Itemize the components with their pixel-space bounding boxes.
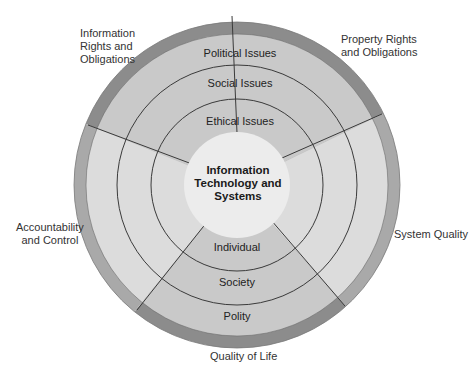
label-quality-of-life: Quality of Life [210,350,277,363]
label-information-rights: Information Rights and Obligations [80,27,135,66]
ring-label-ethical: Ethical Issues [206,115,274,127]
ring-label-political: Political Issues [204,47,277,59]
center-label: Information Technology and Systems [183,164,293,203]
label-system-quality: System Quality [394,228,468,241]
ring-label-society: Society [219,276,255,288]
label-accountability-control: Accountability and Control [16,221,84,247]
label-property-rights: Property Rights and Obligations [341,33,417,59]
ring-label-individual: Individual [214,241,260,253]
ring-label-polity: Polity [224,310,251,322]
ring-label-social: Social Issues [208,77,273,89]
